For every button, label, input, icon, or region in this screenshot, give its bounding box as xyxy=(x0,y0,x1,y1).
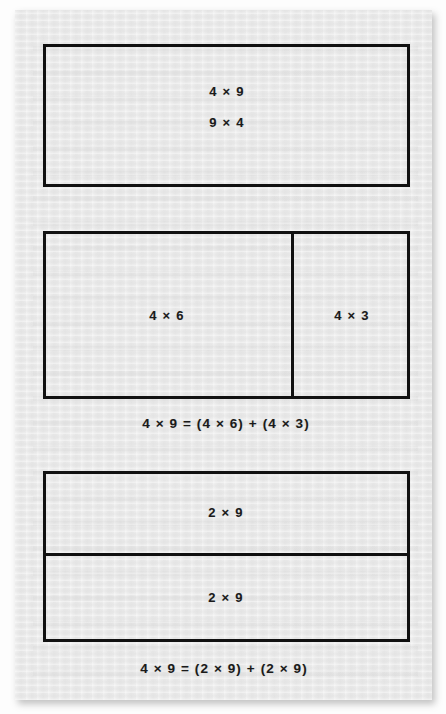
worksheet-card: 4 × 9 9 × 4 4 × 6 4 × 3 4 × 9 = (4 × 6) … xyxy=(15,10,432,700)
label-part-4x6: 4 × 6 xyxy=(149,308,184,323)
horizontal-divider-line xyxy=(43,553,410,556)
equation-split-columns: 4 × 9 = (4 × 6) + (4 × 3) xyxy=(142,416,309,431)
figure-split-rows: 2 × 9 2 × 9 4 × 9 = (2 × 9) + (2 × 9) xyxy=(15,445,432,695)
label-part-2x9-bottom: 2 × 9 xyxy=(208,590,243,605)
equation-split-rows: 4 × 9 = (2 × 9) + (2 × 9) xyxy=(140,661,307,676)
figure-split-columns: 4 × 6 4 × 3 4 × 9 = (4 × 6) + (4 × 3) xyxy=(15,200,432,445)
figure-whole-array: 4 × 9 9 × 4 xyxy=(15,10,432,200)
label-whole-array-4x9: 4 × 9 xyxy=(209,84,244,99)
array-box-split-rows xyxy=(43,471,410,642)
label-part-2x9-top: 2 × 9 xyxy=(208,505,243,520)
label-whole-array-9x4: 9 × 4 xyxy=(209,115,244,130)
worksheet-page: 4 × 9 9 × 4 4 × 6 4 × 3 4 × 9 = (4 × 6) … xyxy=(0,0,446,714)
vertical-divider-line xyxy=(291,231,294,399)
label-part-4x3: 4 × 3 xyxy=(334,308,369,323)
